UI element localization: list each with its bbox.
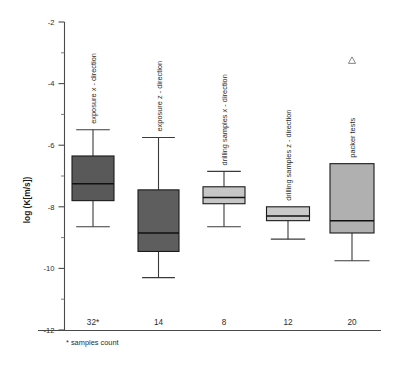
y-tick-label: -10: [44, 264, 55, 273]
box-rect: [203, 187, 245, 204]
box-rect: [330, 164, 374, 233]
y-tick-label: -4: [48, 79, 55, 88]
x-tick-label-1: 32*: [87, 318, 100, 327]
series-label-3: drilling samples x - direction: [220, 74, 229, 165]
box-rect: [138, 190, 179, 252]
box-rect: [72, 156, 114, 201]
boxplot-chart: -2-4-6-8-10-12 log (K[m/s]) 32*1481220 e…: [0, 0, 395, 368]
y-tick-label: -2: [48, 18, 55, 27]
x-tick-label-4: 12: [283, 318, 293, 327]
x-tick-label-2: 14: [154, 318, 164, 327]
box-rect: [267, 207, 310, 221]
footnote-samples-count: * samples count: [66, 338, 119, 347]
series-label-1: exposure x - direction: [89, 53, 98, 124]
x-tick-label-5: 20: [347, 318, 357, 327]
series-label-4: drilling samples z - direction: [284, 110, 293, 201]
y-tick-label: -8: [48, 203, 55, 212]
series-label-5: packer tests: [348, 118, 357, 158]
y-tick-label: -12: [44, 326, 55, 335]
x-tick-label-3: 8: [222, 318, 227, 327]
chart-canvas: -2-4-6-8-10-12 log (K[m/s]) 32*1481220 e…: [0, 0, 395, 368]
series-label-2: exposure z - direction: [155, 61, 164, 132]
y-axis-label: log (K[m/s]): [22, 177, 32, 224]
y-tick-label: -6: [48, 141, 55, 150]
